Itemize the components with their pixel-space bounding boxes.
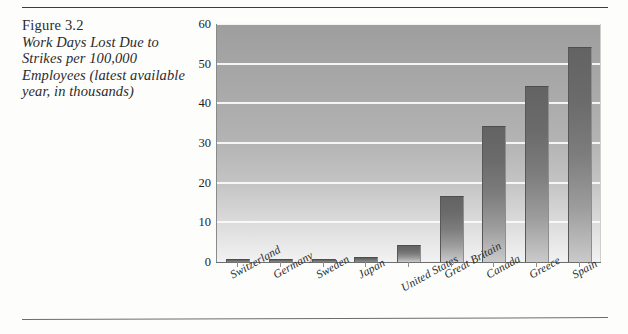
y-axis-tick-label: 40: [199, 96, 212, 111]
y-axis-tick-label: 20: [199, 175, 212, 190]
bar-united-states: [397, 245, 421, 262]
y-axis-tick-label: 10: [199, 215, 212, 230]
bar-chart: 0102030405060 SwitzerlandGermanySwedenJa…: [193, 18, 603, 268]
y-axis-tick-label: 50: [199, 56, 212, 71]
gridline: [216, 63, 600, 65]
x-axis-tick: [408, 262, 409, 267]
y-axis-tick-label: 60: [199, 17, 212, 32]
y-axis-tick-label: 0: [205, 255, 211, 270]
bar-greece: [525, 86, 549, 262]
figure-container: Figure 3.2 Work Days Lost Due to Strikes…: [0, 0, 628, 334]
figure-number: Figure 3.2: [22, 17, 187, 34]
figure-title: Work Days Lost Due to Strikes per 100,00…: [22, 34, 187, 100]
gridline: [216, 23, 600, 25]
y-axis-line: [216, 24, 217, 263]
bar-spain: [568, 47, 592, 262]
bar-great-britain: [440, 196, 464, 262]
page-rule-bottom: [22, 317, 608, 320]
page-rule-top: [22, 7, 608, 8]
figure-caption: Figure 3.2 Work Days Lost Due to Strikes…: [22, 17, 187, 100]
plot-area: 0102030405060: [216, 24, 601, 262]
y-axis-tick-label: 30: [199, 136, 212, 151]
